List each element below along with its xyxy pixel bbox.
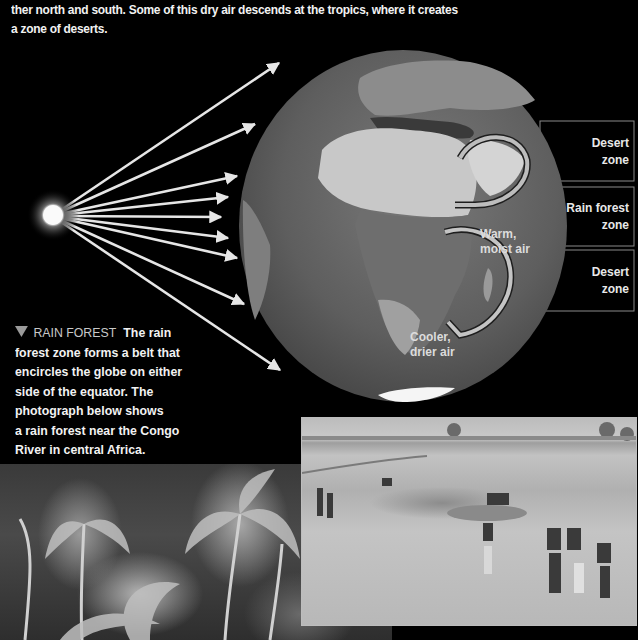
zone-label-line-2: zone bbox=[560, 281, 629, 298]
zone-label-line-2: zone bbox=[560, 217, 629, 234]
warm-moist-air-label: Warm, moist air bbox=[480, 227, 530, 257]
triangle-down-icon bbox=[15, 326, 28, 337]
zone-label-desert-north: Desert zone bbox=[560, 121, 635, 182]
cooler-drier-air-label: Cooler, drier air bbox=[410, 330, 455, 360]
desert-scene-illustration bbox=[302, 418, 637, 626]
sun-icon bbox=[27, 189, 79, 241]
cool-label-line-1: Cooler, bbox=[410, 330, 455, 345]
warm-label-line-1: Warm, bbox=[480, 227, 530, 242]
zone-label-line-1: Desert bbox=[560, 264, 629, 281]
caption-line: photograph below shows bbox=[15, 401, 254, 421]
caption-line: encircles the globe on either bbox=[15, 362, 254, 382]
rain-forest-caption: RAIN FOREST The rain forest zone forms a… bbox=[15, 323, 254, 460]
zone-label-rain-forest: Rain forest zone bbox=[560, 187, 635, 247]
caption-line: side of the equator. The bbox=[15, 382, 254, 402]
globe-earth bbox=[239, 50, 567, 402]
warm-label-line-2: moist air bbox=[480, 242, 530, 257]
caption-heading: RAIN FOREST bbox=[33, 325, 116, 340]
caption-line: a rain forest near the Congo bbox=[15, 421, 254, 441]
caption-line: The rain bbox=[123, 325, 171, 340]
caption-line: forest zone forms a belt that bbox=[15, 343, 254, 363]
desert-river-photo bbox=[301, 417, 637, 626]
zone-label-desert-south: Desert zone bbox=[560, 250, 635, 312]
zone-label-line-1: Desert bbox=[560, 135, 629, 152]
caption-line: River in central Africa. bbox=[15, 440, 254, 460]
zone-label-line-2: zone bbox=[560, 152, 629, 169]
cool-label-line-2: drier air bbox=[410, 345, 455, 360]
zone-label-line-1: Rain forest bbox=[560, 200, 629, 217]
